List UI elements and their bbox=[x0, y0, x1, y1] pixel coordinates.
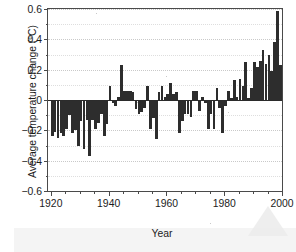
y-axis-tick-minor bbox=[46, 176, 49, 177]
x-axis-tick-label: 1960 bbox=[155, 198, 178, 209]
x-axis-tick-minor bbox=[152, 191, 153, 194]
temperature-change-bar-chart: Average temperature change (°C) 0.60.40.… bbox=[0, 0, 296, 252]
scan-speck bbox=[96, 13, 97, 14]
x-axis-tick-minor bbox=[268, 191, 269, 194]
x-axis-tick-label: 1980 bbox=[213, 198, 236, 209]
bar bbox=[244, 62, 247, 100]
y-axis-tick bbox=[44, 100, 48, 101]
x-axis-tick-minor bbox=[123, 191, 124, 194]
bar bbox=[190, 100, 193, 117]
y-axis-tick-minor bbox=[46, 85, 49, 86]
y-axis-tick bbox=[44, 161, 48, 162]
gridline-major bbox=[48, 9, 282, 10]
scan-speck bbox=[210, 223, 211, 224]
gridline-minor bbox=[48, 24, 282, 25]
y-axis-tick-label: 0.2 bbox=[28, 64, 42, 75]
x-axis-tick-minor bbox=[195, 191, 196, 194]
zero-baseline bbox=[48, 100, 282, 101]
y-axis-tick-minor bbox=[46, 115, 49, 116]
bar bbox=[132, 92, 135, 100]
bar bbox=[195, 91, 198, 100]
x-axis-tick-label: 2000 bbox=[270, 198, 293, 209]
bar bbox=[198, 100, 201, 111]
y-axis-tick bbox=[44, 70, 48, 71]
x-axis-tick-minor bbox=[65, 191, 66, 194]
y-axis-tick-label: −0.6 bbox=[21, 186, 42, 197]
bar bbox=[155, 100, 158, 139]
y-axis-tick bbox=[44, 9, 48, 10]
x-axis-tick-minor bbox=[138, 191, 139, 194]
x-axis-tick-label: 1940 bbox=[97, 198, 120, 209]
bar bbox=[213, 100, 216, 129]
y-axis-tick bbox=[44, 191, 48, 192]
x-axis-tick-minor bbox=[210, 191, 211, 194]
bar bbox=[106, 100, 109, 124]
x-axis-tick-minor bbox=[94, 191, 95, 194]
y-axis-tick-minor bbox=[46, 24, 49, 25]
bar bbox=[143, 100, 146, 108]
x-axis-tick bbox=[109, 191, 110, 196]
x-axis-label: Year bbox=[40, 228, 284, 239]
x-axis-tick-minor bbox=[80, 191, 81, 194]
x-axis-tick bbox=[166, 191, 167, 196]
x-axis-tick bbox=[282, 191, 283, 196]
plot-inner bbox=[48, 9, 282, 191]
gridline-major bbox=[48, 161, 282, 162]
bar bbox=[146, 86, 149, 100]
bar bbox=[279, 65, 282, 100]
gridline-minor bbox=[48, 55, 282, 56]
scan-speck bbox=[166, 76, 167, 77]
scan-speck bbox=[228, 112, 229, 113]
gridline-minor bbox=[48, 176, 282, 177]
plot-area: 0.60.40.20−0.2−0.4−0.6192019401960198020… bbox=[47, 8, 283, 192]
x-axis-tick-label: 1920 bbox=[39, 198, 62, 209]
bar bbox=[109, 86, 112, 100]
y-axis-tick-label: −0.4 bbox=[21, 155, 42, 166]
x-axis-tick bbox=[224, 191, 225, 196]
y-axis-tick-label: 0.4 bbox=[28, 34, 42, 45]
x-axis-tick-minor bbox=[239, 191, 240, 194]
x-axis-tick bbox=[51, 191, 52, 196]
y-axis-tick-label: −0.2 bbox=[21, 125, 42, 136]
y-axis-tick-minor bbox=[46, 146, 49, 147]
y-axis-tick-minor bbox=[46, 55, 49, 56]
gridline-major bbox=[48, 39, 282, 40]
y-axis-tick-label: 0 bbox=[36, 95, 42, 106]
scan-speck bbox=[137, 102, 138, 103]
bar bbox=[216, 88, 219, 100]
y-axis-tick bbox=[44, 130, 48, 131]
y-axis-tick-label: 0.6 bbox=[28, 4, 42, 15]
x-axis-tick-minor bbox=[181, 191, 182, 194]
y-axis-tick bbox=[44, 39, 48, 40]
x-axis-tick-minor bbox=[253, 191, 254, 194]
bar bbox=[175, 92, 178, 100]
